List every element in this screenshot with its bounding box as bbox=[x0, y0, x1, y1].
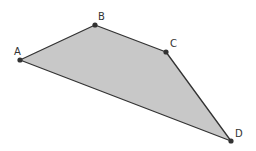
vertex-point-a bbox=[17, 57, 22, 62]
quadrilateral-abcd bbox=[20, 25, 231, 141]
vertex-label-d: D bbox=[235, 128, 243, 139]
vertex-point-b bbox=[92, 22, 97, 27]
quadrilateral-diagram: ABCD bbox=[0, 0, 256, 151]
vertex-point-d bbox=[228, 138, 233, 143]
vertex-label-a: A bbox=[14, 46, 21, 57]
vertex-label-b: B bbox=[98, 11, 105, 22]
vertex-point-c bbox=[163, 49, 168, 54]
vertex-label-c: C bbox=[170, 38, 177, 49]
